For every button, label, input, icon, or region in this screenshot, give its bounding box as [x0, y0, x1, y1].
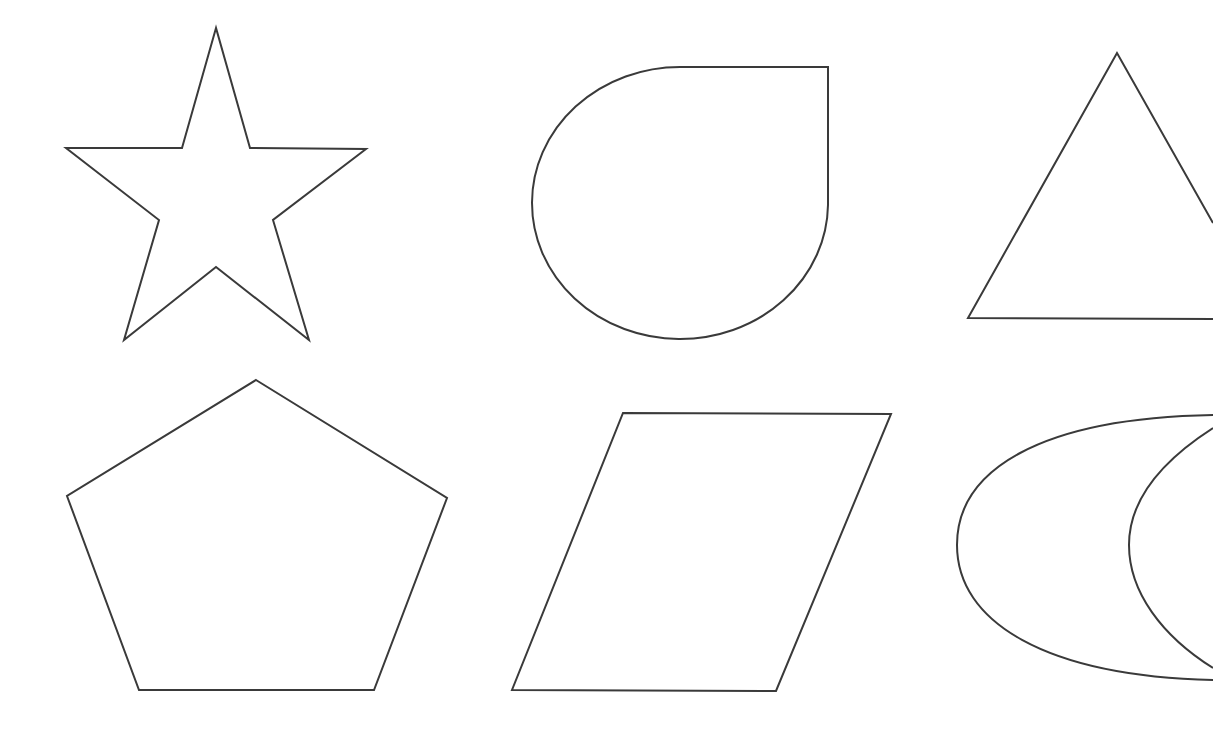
background — [0, 0, 1213, 729]
shapes-canvas — [0, 0, 1213, 729]
